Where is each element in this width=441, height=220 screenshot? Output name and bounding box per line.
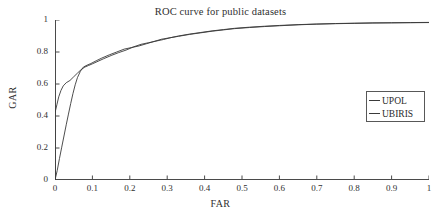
- x-tick-label: 0.1: [79, 183, 105, 193]
- y-tick-label: 0.2: [22, 142, 48, 152]
- x-tick-label: 1: [416, 183, 441, 193]
- roc-chart-figure: ROC curve for public datasets 00.10.20.3…: [0, 0, 441, 220]
- legend-item-ubiris: UBIRIS: [369, 107, 424, 120]
- x-tick-label: 0.8: [341, 183, 367, 193]
- x-tick-label: 0.4: [192, 183, 218, 193]
- x-tick-label: 0: [42, 183, 68, 193]
- legend-box: UPOL UBIRIS: [366, 91, 425, 122]
- x-tick-label: 0.7: [304, 183, 330, 193]
- x-tick-label: 0.2: [117, 183, 143, 193]
- y-tick-label: 1: [22, 14, 48, 24]
- x-tick-label: 0.9: [379, 183, 405, 193]
- x-axis-label: FAR: [0, 198, 441, 209]
- y-tick-label: 0.6: [22, 78, 48, 88]
- x-tick-label: 0.5: [229, 183, 255, 193]
- chart-title: ROC curve for public datasets: [0, 6, 441, 17]
- y-tick-label: 0.4: [22, 110, 48, 120]
- legend-line-swatch-icon: [369, 113, 380, 114]
- x-tick-label: 0.6: [266, 183, 292, 193]
- y-axis-label: GAR: [7, 78, 18, 118]
- y-tick-label: 0: [22, 174, 48, 184]
- legend-item-upol: UPOL: [369, 94, 424, 107]
- legend-label: UPOL: [382, 95, 407, 107]
- legend-line-swatch-icon: [369, 100, 380, 101]
- legend-label: UBIRIS: [382, 108, 413, 120]
- y-tick-label: 0.8: [22, 46, 48, 56]
- x-tick-label: 0.3: [154, 183, 180, 193]
